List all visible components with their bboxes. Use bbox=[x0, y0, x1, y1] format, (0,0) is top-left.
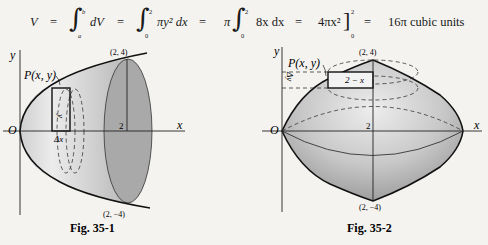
fig2-caption: Fig. 35-2 bbox=[347, 221, 392, 235]
point-pointer bbox=[323, 65, 326, 76]
fig2-top-point: (2, 4) bbox=[359, 48, 377, 57]
fig2-bottom-point: (2, −4) bbox=[359, 203, 381, 212]
fig1-tick-2: 2 bbox=[119, 121, 124, 131]
fig1-y-label: y bbox=[9, 48, 16, 62]
fig2-strip-length: 2 − x bbox=[345, 75, 364, 85]
figures-canvas: y x O 2 P(x, y) (2, 4) (2, −4) y Δx Fig.… bbox=[0, 0, 488, 245]
fig1-caption: Fig. 35-1 bbox=[70, 221, 115, 235]
fig1-bottom-point: (2, −4) bbox=[103, 210, 125, 219]
fig2-strip-width: Δy bbox=[285, 71, 295, 81]
fig1-point-label: P(x, y) bbox=[23, 68, 56, 82]
fig2-point-label: P(x, y) bbox=[287, 56, 320, 70]
fig2-x-label: x bbox=[473, 118, 480, 132]
fig2-origin-label: O bbox=[270, 123, 279, 137]
fig1-strip-height: y bbox=[56, 113, 66, 118]
fig1-origin-label: O bbox=[8, 123, 17, 137]
fig1-top-point: (2, 4) bbox=[110, 48, 128, 57]
fig2-tick-2: 2 bbox=[366, 121, 371, 131]
fig1-strip-width: Δx bbox=[53, 134, 63, 144]
fig2-y-label: y bbox=[273, 44, 280, 58]
fig1-x-label: x bbox=[176, 118, 183, 132]
